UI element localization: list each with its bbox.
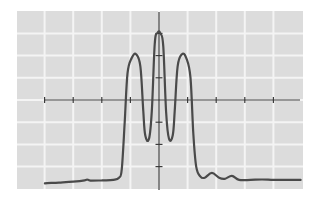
- line-chart: [0, 0, 319, 197]
